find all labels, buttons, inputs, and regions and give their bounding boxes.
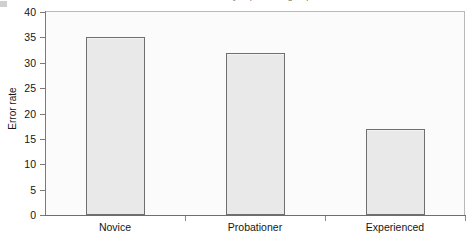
y-axis-tick-label: 35 (0, 32, 36, 43)
y-axis-tick (40, 88, 45, 89)
y-axis-tick (40, 139, 45, 140)
bar-probationer (226, 53, 285, 215)
y-axis-tick-label: 5 (0, 185, 36, 196)
y-axis-tick (40, 164, 45, 165)
x-axis-tick-label: Probationer (185, 222, 325, 233)
y-axis-tick-label: 25 (0, 83, 36, 94)
x-axis-tick (465, 216, 466, 221)
x-axis-tick-label: Novice (45, 222, 185, 233)
y-axis-tick-label: 0 (0, 210, 36, 221)
bar-highlight (227, 54, 284, 55)
x-axis-line (45, 215, 466, 216)
y-axis-tick-label: 20 (0, 109, 36, 120)
x-axis-tick-label: Experienced (325, 222, 465, 233)
bar-novice (86, 37, 145, 215)
y-axis-tick-label: 15 (0, 134, 36, 145)
y-axis-tick-label: 10 (0, 159, 36, 170)
y-axis-tick (40, 190, 45, 191)
y-axis-tick (40, 114, 45, 115)
bar-experienced (366, 129, 425, 215)
bar-highlight (367, 130, 424, 131)
x-axis-tick (325, 216, 326, 221)
y-axis-tick (40, 63, 45, 64)
y-axis-tick (40, 37, 45, 38)
x-axis-tick (185, 216, 186, 221)
y-axis-tick (40, 12, 45, 13)
y-axis-tick-label: 40 (0, 7, 36, 18)
y-axis-tick-label: 30 (0, 58, 36, 69)
bar-highlight (87, 38, 144, 39)
bar-chart: Mean error rate by experience group Erro… (0, 0, 473, 240)
